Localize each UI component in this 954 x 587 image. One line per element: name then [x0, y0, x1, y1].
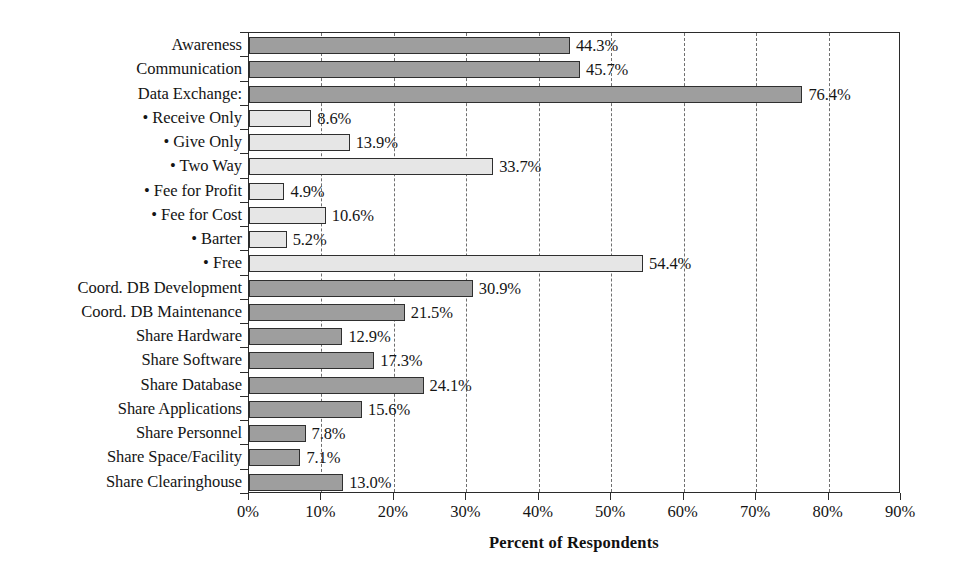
bar-value-label: 7.8%: [312, 422, 346, 445]
bar: [249, 86, 802, 103]
bar-value-label: 10.6%: [332, 204, 374, 227]
bar-row: 24.1%: [249, 373, 899, 399]
bar-row: 4.9%: [249, 179, 899, 205]
y-axis-label: Coord. DB Maintenance: [2, 299, 242, 325]
bar: [249, 183, 284, 200]
bar-row: 76.4%: [249, 82, 899, 108]
bar-row: 13.0%: [249, 470, 899, 496]
bar-value-label: 54.4%: [649, 252, 691, 275]
x-axis-tick-label: 40%: [523, 501, 553, 523]
bar-value-label: 30.9%: [479, 277, 521, 300]
y-axis-label: • Barter: [2, 226, 242, 252]
bar: [249, 449, 300, 466]
y-axis-label: • Free: [2, 250, 242, 276]
bar-value-label: 8.6%: [317, 107, 351, 130]
x-axis-tick: [248, 493, 249, 500]
x-axis-ticks: [248, 493, 900, 501]
x-axis-tick-label: 20%: [378, 501, 408, 523]
x-axis-tick: [393, 493, 394, 500]
bar-row: 30.9%: [249, 276, 899, 302]
x-axis-title: Percent of Respondents: [248, 533, 900, 553]
x-axis-tick-label: 10%: [305, 501, 335, 523]
bar-row: 44.3%: [249, 33, 899, 59]
y-axis-label: • Receive Only: [2, 105, 242, 131]
bar-value-label: 33.7%: [499, 155, 541, 178]
x-axis-tick-label: 90%: [885, 501, 915, 523]
bar: [249, 110, 311, 127]
y-axis-label: Share Space/Facility: [2, 444, 242, 470]
x-axis-tick: [828, 493, 829, 500]
x-axis-tick: [755, 493, 756, 500]
bar-value-label: 15.6%: [368, 398, 410, 421]
x-axis-tick: [320, 493, 321, 500]
x-axis-tick-label: 50%: [595, 501, 625, 523]
y-axis-label: • Fee for Cost: [2, 202, 242, 228]
bar-row: 21.5%: [249, 300, 899, 326]
bar-row: 7.8%: [249, 421, 899, 447]
bar-value-label: 76.4%: [808, 83, 850, 106]
bar-value-label: 12.9%: [348, 325, 390, 348]
x-axis-tick-label: 70%: [740, 501, 770, 523]
bar: [249, 352, 374, 369]
x-axis-tick: [683, 493, 684, 500]
bar-row: 8.6%: [249, 106, 899, 132]
bar-value-label: 13.9%: [356, 131, 398, 154]
plot-area: 44.3%45.7%76.4%8.6%13.9%33.7%4.9%10.6%5.…: [248, 32, 900, 493]
y-axis-label: Share Personnel: [2, 420, 242, 446]
y-axis-label: Coord. DB Development: [2, 275, 242, 301]
bar-value-label: 21.5%: [411, 301, 453, 324]
y-axis-category-labels: AwarenessCommunicationData Exchange:• Re…: [0, 32, 242, 493]
bar-row: 12.9%: [249, 324, 899, 350]
y-axis-label: Share Clearinghouse: [2, 469, 242, 495]
bar: [249, 231, 287, 248]
bar: [249, 255, 643, 272]
bar: [249, 328, 342, 345]
bar: [249, 304, 405, 321]
y-axis-label: Share Software: [2, 347, 242, 373]
bar-value-label: 7.1%: [306, 446, 340, 469]
y-axis-label: Data Exchange:: [2, 81, 242, 107]
x-axis-tick: [900, 493, 901, 500]
bar-row: 17.3%: [249, 348, 899, 374]
bar-row: 15.6%: [249, 397, 899, 423]
bar-row: 33.7%: [249, 154, 899, 180]
bar-value-label: 45.7%: [586, 58, 628, 81]
y-axis-label: • Give Only: [2, 129, 242, 155]
bar-row: 54.4%: [249, 251, 899, 277]
bar: [249, 61, 580, 78]
x-axis-tick-label: 80%: [812, 501, 842, 523]
bar: [249, 377, 424, 394]
y-axis-label: Awareness: [2, 32, 242, 58]
bar: [249, 37, 570, 54]
y-axis-label: • Fee for Profit: [2, 178, 242, 204]
bar-value-label: 4.9%: [290, 180, 324, 203]
y-axis-label: • Two Way: [2, 153, 242, 179]
x-axis-tick-label: 0%: [237, 501, 259, 523]
bar-value-label: 5.2%: [293, 228, 327, 251]
x-axis-tick: [538, 493, 539, 500]
bar: [249, 158, 493, 175]
y-axis-label: Share Database: [2, 372, 242, 398]
bar: [249, 401, 362, 418]
x-axis-tick-labels: 0%10%20%30%40%50%60%70%80%90%: [248, 501, 900, 525]
bar: [249, 280, 473, 297]
y-axis-label: Share Applications: [2, 396, 242, 422]
bar-row: 10.6%: [249, 203, 899, 229]
bar-row: 45.7%: [249, 57, 899, 83]
bar-row: 7.1%: [249, 445, 899, 471]
x-axis-tick-label: 30%: [450, 501, 480, 523]
x-axis-tick: [610, 493, 611, 500]
bar: [249, 474, 343, 491]
bar-value-label: 44.3%: [576, 34, 618, 57]
bar-chart: AwarenessCommunicationData Exchange:• Re…: [0, 0, 954, 587]
x-axis-tick: [465, 493, 466, 500]
bar: [249, 425, 306, 442]
y-axis-label: Share Hardware: [2, 323, 242, 349]
bar: [249, 134, 350, 151]
bar: [249, 207, 326, 224]
bar-value-label: 24.1%: [430, 374, 472, 397]
bar-value-label: 13.0%: [349, 471, 391, 494]
bar-row: 13.9%: [249, 130, 899, 156]
bar-value-label: 17.3%: [380, 349, 422, 372]
bar-row: 5.2%: [249, 227, 899, 253]
